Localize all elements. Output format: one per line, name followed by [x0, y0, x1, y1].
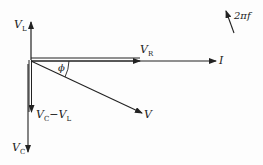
- vc-minus-vl-label: VC−VL: [36, 109, 71, 123]
- vr-label: VR: [140, 44, 153, 58]
- rotation-label: 2πf: [234, 11, 251, 21]
- i-label: I: [219, 55, 223, 66]
- vl-label: VL: [14, 19, 27, 33]
- phi-label: ϕ: [58, 63, 65, 73]
- phasor-lines: [0, 0, 263, 165]
- v-label: V: [144, 109, 152, 120]
- v-phasor: [31, 61, 142, 113]
- phi-arc: [65, 61, 69, 77]
- vc-label: VC: [12, 142, 25, 156]
- phasor-diagram: VL VR I ϕ V VC−VL VC 2πf: [0, 0, 263, 165]
- rotation-arrow-icon: [226, 11, 234, 33]
